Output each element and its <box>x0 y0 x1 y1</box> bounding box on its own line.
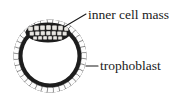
label-trophoblast: trophoblast <box>100 59 161 73</box>
inner-cell-mass-cluster <box>26 23 71 43</box>
blastocyst-diagram-figure: inner cell mass trophoblast <box>0 0 171 99</box>
label-inner-cell-mass: inner cell mass <box>88 8 169 22</box>
inner-cell-mass-leader-line <box>64 14 86 27</box>
